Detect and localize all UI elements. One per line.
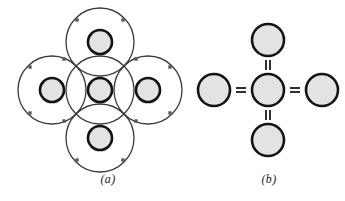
- electron-top-atom-ne-dot: [121, 18, 124, 21]
- nucleus-right-atom: [136, 78, 160, 102]
- electron-pair-upper-left-dot: [62, 57, 65, 60]
- b-atom-left: [198, 74, 230, 106]
- caption-panel-a: (a): [78, 172, 138, 187]
- electron-right-atom-ne-dot: [168, 65, 171, 68]
- b-atom-right: [306, 74, 338, 106]
- b-atom-top: [252, 24, 284, 56]
- bond-left: [236, 88, 246, 92]
- electron-pair-lower-left-dot: [62, 119, 65, 122]
- nucleus-bottom-atom: [88, 126, 112, 150]
- caption-panel-b: (b): [239, 172, 299, 187]
- nucleus-top-atom: [88, 30, 112, 54]
- bond-top: [266, 60, 270, 70]
- electron-bottom-atom-se-dot: [121, 158, 124, 161]
- panel-b-group: [198, 24, 338, 156]
- electron-pair-upper-right-dot: [134, 57, 137, 60]
- figure-canvas: [0, 0, 345, 201]
- b-atom-center: [252, 74, 284, 106]
- panel-b-atoms: [198, 24, 338, 156]
- electron-left-atom-sw-dot: [28, 111, 31, 114]
- electron-right-atom-se-dot: [168, 111, 171, 114]
- electron-bottom-atom-sw-dot: [75, 158, 78, 161]
- b-atom-bottom: [252, 124, 284, 156]
- bonding-figure: (a) (b): [0, 0, 345, 201]
- electron-top-atom-nw-dot: [75, 18, 78, 21]
- electron-pair-lower-right-dot: [134, 119, 137, 122]
- bond-right: [290, 88, 300, 92]
- panel-a-group: [18, 8, 182, 172]
- electron-left-atom-nw-dot: [28, 65, 31, 68]
- nuclei: [40, 30, 160, 150]
- nucleus-left-atom: [40, 78, 64, 102]
- bond-bottom: [266, 110, 270, 120]
- nucleus-center-atom: [88, 78, 112, 102]
